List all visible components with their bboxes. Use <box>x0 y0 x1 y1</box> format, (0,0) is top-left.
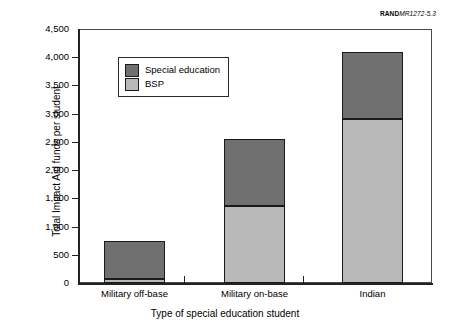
bar-segment-bsp <box>104 279 165 283</box>
y-axis-title: Total Impact Aid funds per student <box>51 32 62 292</box>
legend-label: BSP <box>145 79 164 89</box>
bar-segment-special-education <box>342 52 403 120</box>
y-axis-tick <box>72 114 78 115</box>
x-axis-line <box>78 283 433 285</box>
y-axis-tick <box>72 142 78 143</box>
bar-segment-bsp <box>224 206 285 283</box>
bar-military-off-base <box>104 241 165 283</box>
legend-label: Special education <box>145 65 220 75</box>
x-axis-label-indian: Indian <box>360 288 386 299</box>
legend-item: Special education <box>125 63 220 77</box>
rand-code-text: MR1272-5.3 <box>399 10 436 17</box>
x-axis-tick <box>184 276 185 284</box>
y-axis-tick <box>72 170 78 171</box>
legend-swatch-icon <box>125 64 139 77</box>
y-axis-tick <box>72 85 78 86</box>
y-axis-line <box>78 29 80 284</box>
x-axis-tick <box>303 276 304 284</box>
x-axis-label-military-on-base: Military on-base <box>221 288 288 299</box>
y-axis-tick <box>72 227 78 228</box>
x-axis-title: Type of special education student <box>0 308 450 319</box>
legend-item: BSP <box>125 77 220 91</box>
rand-brand-text: RAND <box>380 10 399 17</box>
y-axis-tick <box>72 255 78 256</box>
y-axis-tick-label: 0 <box>64 278 69 288</box>
x-axis-label-military-off-base: Military off-base <box>101 288 168 299</box>
bar-segment-special-education <box>224 139 285 207</box>
bar-military-on-base <box>224 139 285 283</box>
bar-indian <box>342 52 403 283</box>
chart-legend: Special educationBSP <box>118 57 229 97</box>
figure-stacked-bar-chart: RANDMR1272-5.3 05001,0001,5002,0002,5003… <box>0 0 450 331</box>
bar-segment-bsp <box>342 119 403 283</box>
y-axis-tick <box>72 198 78 199</box>
bar-segment-special-education <box>104 241 165 279</box>
rand-source-id: RANDMR1272-5.3 <box>380 10 436 17</box>
legend-swatch-icon <box>125 78 139 91</box>
y-axis-tick <box>72 57 78 58</box>
